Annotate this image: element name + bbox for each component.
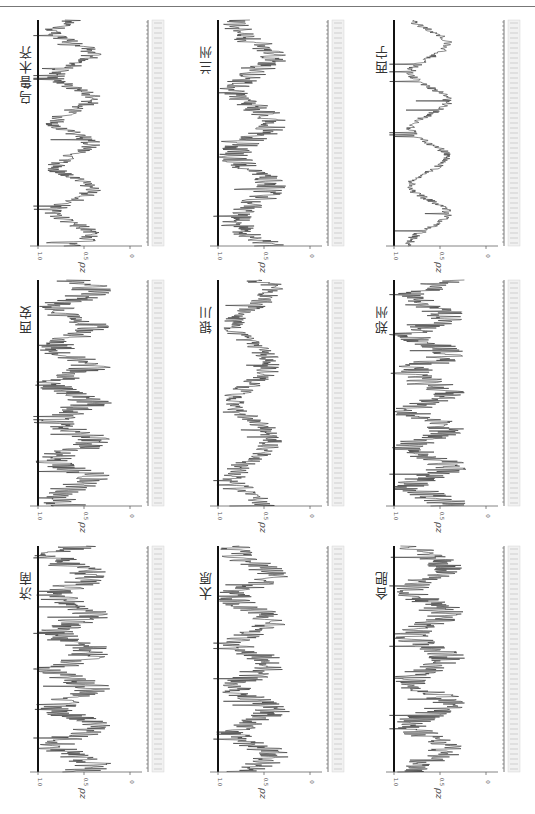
y-tick-label: 1.0	[37, 252, 43, 261]
chart-panel: 1.00.50太原ρz	[188, 542, 366, 804]
axis-label: ρz	[78, 788, 89, 799]
panel-title: 济南	[16, 570, 35, 600]
axis-label: ρz	[434, 788, 445, 799]
panel-title: 郑州	[372, 304, 391, 334]
series-line	[389, 546, 464, 772]
y-tick-label: 0	[129, 254, 135, 258]
y-tick-label: 1.0	[37, 512, 43, 521]
axis-label: ρz	[434, 262, 445, 273]
y-tick-label: 1.0	[217, 778, 223, 787]
panel-title: 合肥	[372, 570, 391, 600]
y-tick-label: 0	[129, 780, 135, 784]
y-tick-label: 0.5	[83, 778, 89, 787]
y-tick-label: 0	[485, 514, 491, 518]
y-tick-label: 0	[309, 780, 315, 784]
y-tick-label: 0.5	[263, 252, 269, 261]
chart-panel: 1.00.50郑州ρz	[364, 276, 535, 538]
axis-label: ρz	[78, 262, 89, 273]
y-tick-label: 1.0	[217, 252, 223, 261]
chart-panel: 1.00.50乌鲁木齐ρz	[8, 16, 186, 278]
panel-title: 西宁	[372, 44, 391, 74]
y-tick-label: 0	[309, 514, 315, 518]
chart-panel: 1.00.50西宁ρz	[364, 16, 535, 278]
series-line	[33, 280, 111, 506]
series-line	[213, 20, 285, 246]
y-tick-label: 0.5	[439, 778, 445, 787]
y-tick-label: 0.5	[439, 512, 445, 521]
y-tick-label: 0	[309, 254, 315, 258]
y-tick-label: 1.0	[393, 512, 399, 521]
figure-grid: 1.00.50乌鲁木齐ρz1.00.50兰州ρz1.00.50西宁ρz1.00.…	[0, 14, 535, 814]
y-tick-label: 0.5	[263, 778, 269, 787]
series-line	[389, 280, 466, 506]
panel-title: 银川	[196, 304, 215, 334]
y-tick-label: 0	[485, 254, 491, 258]
axis-label: ρz	[258, 522, 269, 533]
chart-panel: 1.00.50兰州ρz	[188, 16, 366, 278]
y-tick-label: 0	[129, 514, 135, 518]
series-line	[389, 20, 452, 246]
axis-label: ρz	[78, 522, 89, 533]
chart-panel: 1.00.50银川ρz	[188, 276, 366, 538]
y-tick-label: 0	[485, 780, 491, 784]
panel-title: 西安	[16, 304, 35, 334]
series-line	[213, 546, 289, 772]
y-tick-label: 0.5	[83, 252, 89, 261]
y-tick-label: 0.5	[263, 512, 269, 521]
series-line	[33, 20, 101, 246]
panel-title: 兰州	[196, 44, 215, 74]
y-tick-label: 1.0	[393, 778, 399, 787]
axis-label: ρz	[258, 262, 269, 273]
chart-panel: 1.00.50西安ρz	[8, 276, 186, 538]
y-tick-label: 1.0	[393, 252, 399, 261]
panel-title: 乌鲁木齐	[16, 44, 35, 104]
chart-panel: 1.00.50济南ρz	[8, 542, 186, 804]
header-rule	[0, 6, 535, 7]
y-tick-label: 0.5	[83, 512, 89, 521]
y-tick-label: 0.5	[439, 252, 445, 261]
page-header	[0, 0, 535, 12]
series-line	[33, 546, 110, 772]
chart-panel: 1.00.50合肥ρz	[364, 542, 535, 804]
series-line	[213, 280, 282, 506]
y-tick-label: 1.0	[37, 778, 43, 787]
axis-label: ρz	[434, 522, 445, 533]
panel-title: 太原	[196, 570, 215, 600]
axis-label: ρz	[258, 788, 269, 799]
y-tick-label: 1.0	[217, 512, 223, 521]
